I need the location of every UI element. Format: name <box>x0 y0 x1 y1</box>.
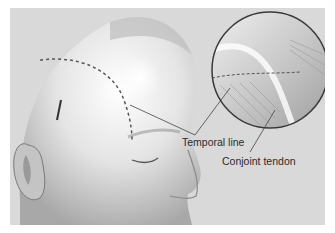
head-illustration <box>10 8 325 225</box>
label-conjoint-tendon: Conjoint tendon <box>222 155 296 167</box>
label-temporal-line: Temporal line <box>182 136 244 148</box>
magnified-inset <box>210 10 325 135</box>
illustration-panel <box>10 8 325 225</box>
head-profile <box>20 17 201 225</box>
